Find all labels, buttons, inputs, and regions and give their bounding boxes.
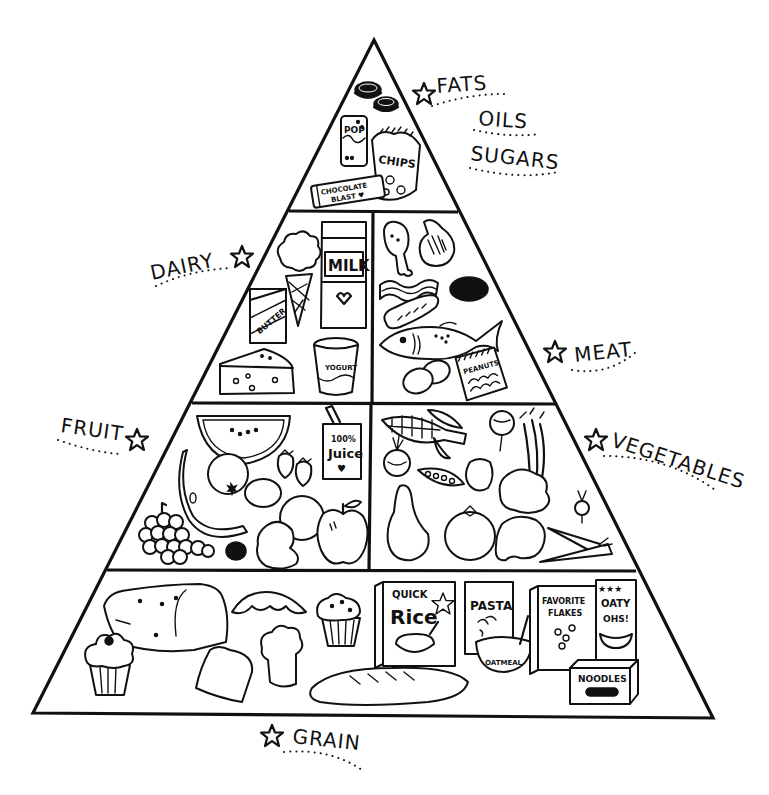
label-grain-text: GRAIN [291,724,361,755]
cookie-icon [374,97,398,111]
dinner-roll-icon [261,626,302,687]
label-dairy-text: DAIRY [148,248,216,285]
butter-box-icon: BUTTER [250,289,288,343]
flakes-label-2: FLAKES [548,609,582,618]
rice-label-1: QUICK [392,589,429,600]
label-meat: MEAT [544,337,636,371]
star-outline-icon [544,341,566,362]
radish-icon [575,491,589,523]
toast-icon [196,647,252,702]
croissant-icon [232,592,306,613]
label-meat-text: MEAT [573,337,633,367]
yogurt-cup-icon: YOGURT [314,338,358,395]
section-grain: QUICK Rice PASTA OATMEAL FAVORITE FLAKES [85,580,638,705]
label-sugars: SUGARS [469,141,560,175]
noodles-box-icon: NOODLES [570,660,638,704]
juice-label-2: Juice [327,446,363,461]
label-sugars-text: SUGARS [469,141,560,174]
hamburger-patty-icon [450,277,488,301]
flakes-label-1: FAVORITE [542,597,585,606]
cupcake-icon [85,634,133,695]
potato-icon [496,517,545,560]
juice-box-icon: 100% Juice ♥ [323,406,363,479]
beet-icon [490,411,514,451]
apple-icon [317,501,367,564]
oaty-stars: ★★★ [598,584,622,594]
squash-icon [388,485,429,560]
oatmeal-label: OATMEAL [485,659,523,667]
strawberries-icon [278,450,311,486]
label-fruit: FRUIT [58,413,148,454]
juice-label-1: 100% [331,435,356,444]
section-vegetables [382,408,612,562]
peas-pod-icon [418,469,464,486]
divider-tier-3 [107,570,636,571]
divider-dairy-meat [372,212,373,403]
onion-icon [384,436,410,476]
chicken-drumstick-icon [384,222,412,276]
food-pyramid-diagram: POP CHIPS CHOCOLATE BLAST ♥ [0,0,769,795]
pop-label: POP [344,125,365,135]
label-grain: GRAIN [261,724,362,770]
dotted-underline [284,751,362,770]
blackberry-icon [226,542,246,560]
sausage-icon [384,295,438,328]
rice-label-2: Rice [390,605,438,629]
rice-box-icon: QUICK Rice [375,582,455,668]
lemon-icon [245,479,281,507]
divider-tier-2 [192,403,555,404]
star-outline-icon [261,725,283,746]
juice-label-3: ♥ [337,463,346,474]
label-vegetables: VEGETABLES [585,428,748,494]
cereal-box-oaty-icon: ★★★ OATY OHS! [596,580,636,666]
label-dairy: DAIRY [148,246,253,286]
baguette-icon [310,668,468,705]
milk-label: MILK [328,257,371,275]
bell-pepper-icon [466,459,493,491]
cookie-icon [355,82,381,98]
label-fruit-text: FRUIT [59,413,125,446]
label-fats-text: FATS [436,71,488,98]
orange-icon [208,454,248,494]
eggs-icon [400,357,453,398]
star-outline-icon [231,246,253,267]
milk-carton-icon: MILK [321,222,371,328]
star-outline-icon [413,83,435,104]
divider-fruit-vegetables [369,404,371,570]
label-oils: OILS [474,106,540,135]
label-fats: FATS [413,71,504,106]
cheese-wedge-icon [220,349,294,394]
pop-can-icon: POP [341,116,367,166]
yogurt-label: YOGURT [324,364,357,372]
carrots-icon [540,528,612,562]
watermelon-slice-icon [197,416,290,464]
star-outline-icon [585,429,607,450]
noodles-label: NOODLES [578,674,627,684]
oaty-label-1: OATY [601,598,631,609]
section-fruit: 100% Juice ♥ [139,406,368,569]
label-vegetables-text: VEGETABLES [608,428,748,494]
lettuce-icon [500,469,550,513]
tomato-icon [445,506,495,560]
pasta-label: PASTA [470,599,513,613]
divider-tier-1 [289,211,458,212]
label-oils-text: OILS [478,106,529,133]
muffin-icon [317,594,360,646]
ham-icon [420,220,455,266]
section-meat: PEANUTS [380,220,507,400]
chocolate-bar-icon: CHOCOLATE BLAST ♥ [311,175,386,208]
pear-icon [257,522,298,569]
oaty-label-2: OHS! [603,614,629,624]
star-outline-icon [126,429,148,450]
